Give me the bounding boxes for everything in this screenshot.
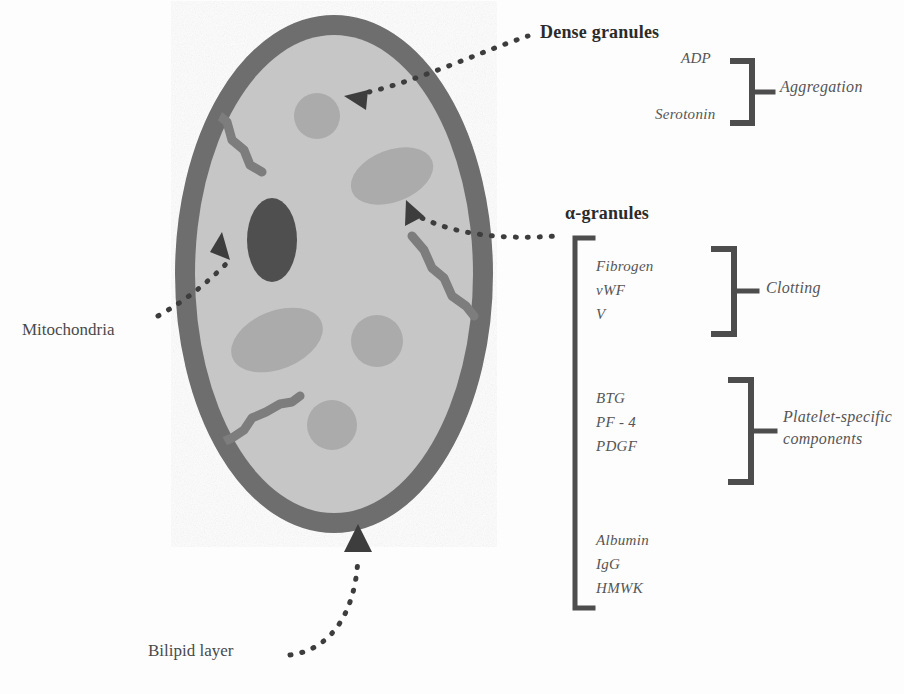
dense-granule-bottom xyxy=(307,400,357,450)
dense-granule-top xyxy=(294,93,340,139)
callout-alpha-granules: α-granules xyxy=(565,203,649,224)
alpha-granule-function-clotting: Clotting xyxy=(766,277,821,299)
clotting-bracket xyxy=(714,249,757,334)
alpha-granule-group-platelet-specific: BTG PF - 4 PDGF xyxy=(596,390,637,462)
alpha-granules-master-bracket xyxy=(575,238,593,608)
alpha-content-hmwk: HMWK xyxy=(596,580,649,597)
callout-dense-granules: Dense granules xyxy=(540,22,659,43)
dense-granule-content-adp: ADP xyxy=(681,50,711,67)
platelet-specific-bracket xyxy=(731,380,775,482)
alpha-content-v: V xyxy=(596,306,654,323)
alpha-granule-lower-right xyxy=(351,315,403,367)
platelet-specific-line2: components xyxy=(783,430,862,447)
alpha-content-pf4: PF - 4 xyxy=(596,414,637,431)
alpha-content-igg: IgG xyxy=(596,556,649,573)
platelet-specific-line1: Platelet-specific xyxy=(783,408,892,425)
platelet-illustration xyxy=(0,0,904,694)
dense-granule-function-aggregation: Aggregation xyxy=(780,76,863,98)
mitochondrion xyxy=(247,198,297,282)
bilipid-layer-leader xyxy=(290,524,372,655)
callout-mitochondria: Mitochondria xyxy=(22,320,115,340)
alpha-granule-group-clotting: Fibrogen vWF V xyxy=(596,258,654,330)
alpha-granule-group-other-proteins: Albumin IgG HMWK xyxy=(596,532,649,604)
callout-bilipid-layer: Bilipid layer xyxy=(148,641,233,661)
dense-granule-content-serotonin: Serotonin xyxy=(655,106,715,123)
alpha-granule-function-platelet-specific: Platelet-specific components xyxy=(783,406,892,449)
platelet-cell xyxy=(186,26,482,522)
alpha-content-fibrogen: Fibrogen xyxy=(596,258,654,275)
alpha-content-btg: BTG xyxy=(596,390,637,407)
alpha-content-pdgf: PDGF xyxy=(596,438,637,455)
dense-granules-bracket xyxy=(733,61,773,123)
alpha-content-albumin: Albumin xyxy=(596,532,649,549)
alpha-content-vwf: vWF xyxy=(596,282,654,299)
diagram-canvas: Dense granules α-granules Mitochondria B… xyxy=(0,0,904,694)
